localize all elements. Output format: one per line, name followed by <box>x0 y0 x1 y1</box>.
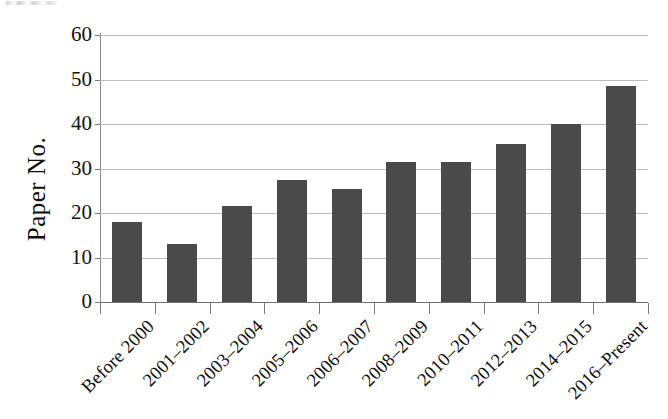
bar <box>222 206 252 302</box>
scan-artifact <box>6 1 64 5</box>
x-tick-label-wrap: 2005–2006 <box>308 316 309 317</box>
bar-chart-figure: Paper No. 6050403020100 Before 20002001–… <box>0 0 668 419</box>
x-tick-label-wrap: Before 2000 <box>144 316 145 317</box>
gridline-60 <box>100 35 648 36</box>
x-tick-label-wrap: 2012–2013 <box>527 316 528 317</box>
bar <box>496 144 526 302</box>
bar <box>277 180 307 302</box>
y-tick-label-30: 30 <box>48 156 92 181</box>
x-tick-mark-9 <box>593 303 594 314</box>
x-tick-mark-8 <box>538 303 539 314</box>
x-tick-label-wrap: 2016–Present <box>637 316 638 317</box>
bar <box>441 162 471 302</box>
x-tick-mark-10 <box>648 303 649 314</box>
x-tick-label-wrap: 2003–2004 <box>253 316 254 317</box>
x-tick-mark-5 <box>374 303 375 314</box>
x-tick-mark-2 <box>210 303 211 314</box>
x-tick-label: Before 2000 <box>77 316 158 397</box>
x-tick-mark-6 <box>429 303 430 314</box>
x-tick-mark-0 <box>100 303 101 314</box>
y-tick-label-60: 60 <box>48 22 92 47</box>
x-tick-label-wrap: 2001–2002 <box>199 316 200 317</box>
bar <box>386 162 416 302</box>
y-tick-label-20: 20 <box>48 200 92 225</box>
bar <box>167 244 197 302</box>
y-tick-label-10: 10 <box>48 245 92 270</box>
plot-area <box>100 35 648 302</box>
x-tick-mark-4 <box>319 303 320 314</box>
bar <box>551 124 581 302</box>
y-axis-title: Paper No. <box>23 99 51 279</box>
x-tick-label-wrap: 2014–2015 <box>582 316 583 317</box>
y-tick-label-40: 40 <box>48 111 92 136</box>
bar <box>332 189 362 302</box>
x-tick-label-wrap: 2008–2009 <box>418 316 419 317</box>
x-tick-label-wrap: 2006–2007 <box>363 316 364 317</box>
x-tick-mark-3 <box>264 303 265 314</box>
y-tick-label-50: 50 <box>48 67 92 92</box>
x-tick-mark-1 <box>155 303 156 314</box>
gridline-50 <box>100 80 648 81</box>
bar <box>112 222 142 302</box>
bar <box>606 86 636 302</box>
x-tick-mark-7 <box>484 303 485 314</box>
x-tick-label-wrap: 2010–2011 <box>473 316 474 317</box>
y-tick-label-0: 0 <box>48 289 92 314</box>
